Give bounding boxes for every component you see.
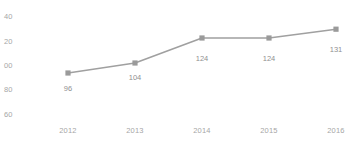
x-tick-label-2016: 2016 (318, 127, 354, 135)
y-tick-label-60: 60 (4, 111, 13, 119)
y-tick-label-100: 00 (4, 62, 13, 70)
data-point-marker (333, 27, 338, 32)
data-label-2015: 124 (251, 55, 287, 63)
line-chart: 40 20 00 80 60 2012 2013 2014 2015 2016 … (0, 0, 359, 150)
data-point-marker (132, 60, 137, 65)
data-point-marker (65, 70, 70, 75)
x-tick-label-2014: 2014 (184, 127, 220, 135)
data-label-2016: 131 (318, 46, 354, 54)
data-label-2012: 96 (50, 85, 86, 93)
x-tick-label-2015: 2015 (251, 127, 287, 135)
data-point-marker (266, 35, 271, 40)
data-label-2013: 104 (117, 74, 153, 82)
data-label-2014: 124 (184, 55, 220, 63)
y-tick-label-140: 40 (4, 13, 13, 21)
x-tick-label-2013: 2013 (117, 127, 153, 135)
y-tick-label-80: 80 (4, 86, 13, 94)
data-point-marker (199, 35, 204, 40)
x-tick-label-2012: 2012 (50, 127, 86, 135)
y-tick-label-120: 20 (4, 38, 13, 46)
